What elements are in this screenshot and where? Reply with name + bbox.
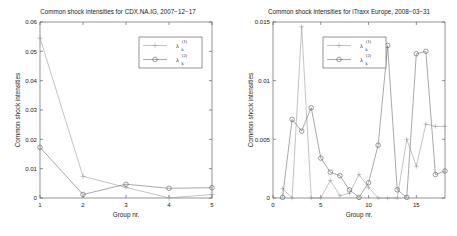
right-chart-title: Common shock intensities for iTraxx Euro… <box>267 8 430 16</box>
right-legend-sup2: (2) <box>366 53 371 58</box>
chart-panel-left: Common shock intensities for CDX.NA.IG, … <box>0 0 229 236</box>
left-ytick-2: 0.02 <box>25 136 37 143</box>
left-legend-lambda2: λ <box>176 56 179 63</box>
left-legend-sup1: (1) <box>182 39 187 44</box>
right-ytick-1: 0.005 <box>254 136 270 143</box>
left-ytick-0: 0 <box>34 194 38 201</box>
left-ytick-6: 0.06 <box>25 18 37 25</box>
right-ytick-0: 0 <box>266 194 270 201</box>
right-xtick-3: 15 <box>412 201 419 208</box>
right-ytick-2: 0.01 <box>258 77 270 84</box>
left-ytick-3: 0.03 <box>25 106 37 113</box>
left-xaxis-label: Group nr. <box>113 211 140 219</box>
figure-container: Common shock intensities for CDX.NA.IG, … <box>0 0 457 236</box>
right-legend-box <box>323 37 386 68</box>
right-xaxis-label: Group nr. <box>345 211 372 219</box>
left-chart-svg: Common shock intensities for CDX.NA.IG, … <box>0 0 229 236</box>
right-legend-sup1: (1) <box>366 39 371 44</box>
left-xtick-1: 2 <box>81 201 85 208</box>
left-ytick-4: 0.04 <box>25 77 37 84</box>
left-xtick-3: 4 <box>167 201 171 208</box>
right-xtick-0: 0 <box>271 201 275 208</box>
chart-panel-right: Common shock intensities for iTraxx Euro… <box>229 0 457 236</box>
left-legend-sup2: (2) <box>182 53 187 58</box>
right-legend[interactable]: λ (1) k λ (2) k <box>323 37 386 68</box>
right-xtick-2: 10 <box>365 201 372 208</box>
left-ytick-1: 0.01 <box>25 165 37 172</box>
left-xtick-0: 1 <box>38 201 42 208</box>
left-yaxis-label: Common shock intensities <box>14 73 21 148</box>
left-xtick-2: 3 <box>124 201 128 208</box>
left-legend[interactable]: λ (1) k λ (2) k <box>139 37 202 68</box>
left-ytick-5: 0.05 <box>25 48 37 55</box>
right-xtick-1: 5 <box>319 201 323 208</box>
right-yaxis-label: Common shock intensities <box>247 73 254 148</box>
left-chart-title: Common shock intensities for CDX.NA.IG, … <box>40 8 196 15</box>
left-legend-lambda1: λ <box>176 42 179 49</box>
right-chart-svg: Common shock intensities for iTraxx Euro… <box>229 0 457 236</box>
left-legend-box <box>139 37 202 68</box>
right-legend-lambda2: λ <box>360 56 363 63</box>
right-legend-lambda1: λ <box>360 42 363 49</box>
right-ytick-3: 0.015 <box>254 18 270 25</box>
left-xtick-4: 5 <box>210 201 214 208</box>
